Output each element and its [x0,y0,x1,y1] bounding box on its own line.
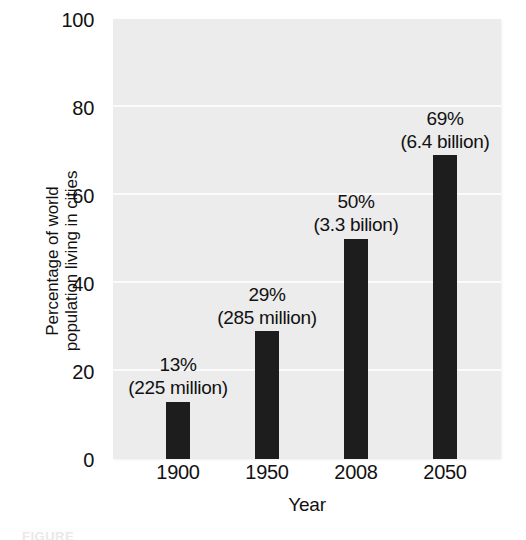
x-tick-label-2050: 2050 [390,462,500,482]
bar-2008 [344,239,368,459]
y-tick-label-40: 40 [48,274,94,294]
bar-label-1900-percent: 13% [88,353,268,376]
bar-label-2050-absolute: (6.4 billion) [355,130,526,153]
bar-1950 [255,331,279,459]
bar-label-1900: 13% (225 million) [88,353,268,399]
x-axis-title: Year [113,494,501,516]
figure-caption: FIGURE [22,529,282,540]
y-tick-label-60: 60 [48,186,94,206]
bar-label-1950-percent: 29% [177,283,357,306]
bar-label-2050-percent: 69% [355,107,526,130]
bar-1900 [166,402,190,459]
y-axis-tick-labels: 100 80 60 40 20 0 [42,0,94,540]
y-tick-label-0: 0 [48,450,94,470]
gridline-80 [113,105,501,107]
bar-2050 [433,155,457,459]
y-tick-label-20: 20 [48,362,94,382]
bar-label-2050: 69% (6.4 billion) [355,107,526,153]
bar-label-1950: 29% (285 million) [177,283,357,329]
y-tick-label-100: 100 [48,10,94,30]
bar-label-2008-absolute: (3.3 bilion) [266,213,446,236]
y-tick-label-80: 80 [48,98,94,118]
plot-area: 13% (225 million) 29% (285 million) 50% … [113,19,501,459]
bar-label-1950-absolute: (285 million) [177,306,357,329]
bar-label-2008: 50% (3.3 bilion) [266,190,446,236]
bar-chart-figure: Percentage of world population living in… [0,0,526,540]
x-axis-tick-labels: 1900 1950 2008 2050 [113,462,501,492]
bar-label-1900-absolute: (225 million) [88,376,268,399]
